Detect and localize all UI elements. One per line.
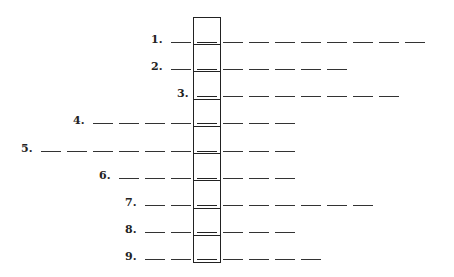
puzzle-row: 7. [0, 205, 454, 217]
key-letter-blank[interactable] [197, 259, 217, 260]
row-number-label: 6. [99, 169, 110, 182]
row-number-label: 8. [125, 223, 136, 236]
letter-blank[interactable] [171, 178, 191, 179]
key-letter-blank[interactable] [197, 178, 217, 179]
letter-blank[interactable] [353, 42, 373, 43]
letter-blank[interactable] [249, 69, 269, 70]
letter-blank[interactable] [223, 178, 243, 179]
letter-blank[interactable] [275, 151, 295, 152]
letter-blank[interactable] [327, 69, 347, 70]
letter-blank[interactable] [171, 259, 191, 260]
row-number-label: 2. [151, 60, 162, 73]
key-letter-blank[interactable] [197, 232, 217, 233]
puzzle-row: 9. [0, 259, 454, 271]
letter-blank[interactable] [145, 232, 165, 233]
letter-blank[interactable] [275, 123, 295, 124]
letter-blank[interactable] [301, 96, 321, 97]
letter-blank[interactable] [327, 96, 347, 97]
letter-blank[interactable] [249, 123, 269, 124]
key-letter-blank[interactable] [197, 96, 217, 97]
letter-blank[interactable] [145, 123, 165, 124]
letter-blank[interactable] [249, 96, 269, 97]
row-number-label: 7. [125, 196, 136, 209]
letter-blank[interactable] [275, 178, 295, 179]
row-number-label: 9. [125, 250, 136, 263]
letter-blank[interactable] [67, 151, 87, 152]
letter-blank[interactable] [249, 232, 269, 233]
puzzle-row: 1. [0, 42, 454, 54]
letter-blank[interactable] [93, 123, 113, 124]
letter-blank[interactable] [223, 259, 243, 260]
letter-blank[interactable] [171, 205, 191, 206]
puzzle-row: 5. [0, 151, 454, 163]
puzzle-row: 4. [0, 123, 454, 135]
puzzle-row: 3. [0, 96, 454, 108]
letter-blank[interactable] [223, 151, 243, 152]
letter-blank[interactable] [145, 259, 165, 260]
letter-blank[interactable] [223, 205, 243, 206]
word-puzzle: 1.2.3.4.5.6.7.8.9. [0, 0, 454, 277]
key-letter-blank[interactable] [197, 123, 217, 124]
letter-blank[interactable] [405, 42, 425, 43]
key-letter-blank[interactable] [197, 205, 217, 206]
key-letter-blank[interactable] [197, 151, 217, 152]
letter-blank[interactable] [223, 96, 243, 97]
letter-blank[interactable] [171, 123, 191, 124]
letter-blank[interactable] [223, 232, 243, 233]
letter-blank[interactable] [353, 205, 373, 206]
row-number-label: 5. [21, 142, 32, 155]
letter-blank[interactable] [249, 259, 269, 260]
letter-blank[interactable] [41, 151, 61, 152]
letter-blank[interactable] [119, 178, 139, 179]
letter-blank[interactable] [145, 151, 165, 152]
letter-blank[interactable] [249, 42, 269, 43]
letter-blank[interactable] [223, 123, 243, 124]
letter-blank[interactable] [119, 123, 139, 124]
letter-blank[interactable] [171, 69, 191, 70]
letter-blank[interactable] [249, 178, 269, 179]
letter-blank[interactable] [301, 205, 321, 206]
letter-blank[interactable] [119, 151, 139, 152]
row-number-label: 3. [177, 87, 188, 100]
letter-blank[interactable] [223, 69, 243, 70]
letter-blank[interactable] [93, 151, 113, 152]
letter-blank[interactable] [145, 205, 165, 206]
letter-blank[interactable] [275, 259, 295, 260]
letter-blank[interactable] [145, 178, 165, 179]
letter-blank[interactable] [275, 205, 295, 206]
letter-blank[interactable] [275, 96, 295, 97]
letter-blank[interactable] [301, 259, 321, 260]
letter-blank[interactable] [327, 42, 347, 43]
letter-blank[interactable] [379, 42, 399, 43]
letter-blank[interactable] [353, 96, 373, 97]
letter-blank[interactable] [327, 205, 347, 206]
letter-blank[interactable] [275, 232, 295, 233]
puzzle-row: 2. [0, 69, 454, 81]
letter-blank[interactable] [301, 69, 321, 70]
key-letter-blank[interactable] [197, 69, 217, 70]
row-number-label: 4. [73, 114, 84, 127]
letter-blank[interactable] [379, 96, 399, 97]
letter-blank[interactable] [249, 205, 269, 206]
puzzle-row: 6. [0, 178, 454, 190]
letter-blank[interactable] [171, 151, 191, 152]
key-letter-blank[interactable] [197, 42, 217, 43]
letter-blank[interactable] [171, 232, 191, 233]
puzzle-row: 8. [0, 232, 454, 244]
row-number-label: 1. [151, 33, 162, 46]
letter-blank[interactable] [275, 42, 295, 43]
letter-blank[interactable] [249, 151, 269, 152]
letter-blank[interactable] [223, 42, 243, 43]
letter-blank[interactable] [171, 42, 191, 43]
letter-blank[interactable] [301, 42, 321, 43]
letter-blank[interactable] [275, 69, 295, 70]
